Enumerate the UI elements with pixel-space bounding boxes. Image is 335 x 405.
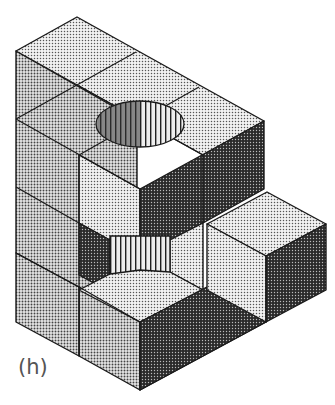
figure-label: (h) <box>18 355 48 379</box>
isometric-cube-diagram <box>0 0 335 405</box>
cylindrical-hole <box>96 101 184 147</box>
